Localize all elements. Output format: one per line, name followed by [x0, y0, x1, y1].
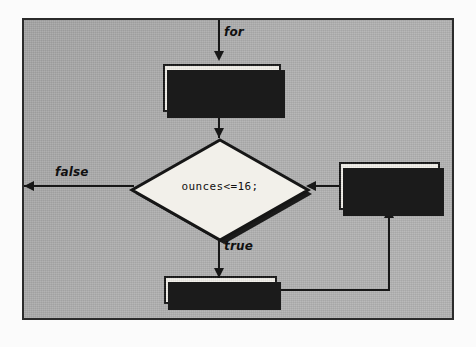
init-box-shadow — [167, 70, 285, 118]
decision-diamond-shape-icon — [132, 136, 316, 244]
loopback-vertical-line — [388, 216, 390, 290]
edge-label-true: true — [224, 239, 253, 253]
edge-label-false: false — [55, 165, 89, 179]
entry-arrowhead-icon — [214, 51, 224, 61]
true-branch-arrowhead-icon — [214, 268, 224, 278]
decision-diamond[interactable]: ounces<=16; — [132, 136, 308, 236]
loopback-horizontal-line — [276, 289, 390, 291]
body-box-shadow — [168, 282, 281, 310]
edge-label-for: for — [224, 25, 244, 39]
diagram-frame: for ounces=1, cost=FIRST; ounces<=16; fa… — [22, 18, 454, 320]
update-box-shadow — [343, 168, 444, 216]
false-branch-arrowhead-icon — [24, 181, 34, 191]
entry-connector-line — [218, 20, 220, 54]
false-branch-line — [24, 185, 134, 187]
flowchart-canvas: for ounces=1, cost=FIRST; ounces<=16; fa… — [0, 0, 476, 347]
